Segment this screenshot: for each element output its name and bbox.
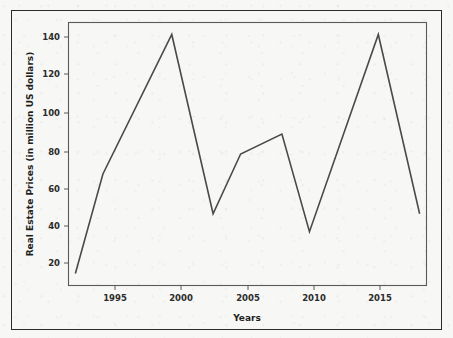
line-chart: 140 120 100 80 60 40 20 1995 2000 2005 2… — [0, 0, 453, 338]
x-axis-title: Years — [232, 313, 261, 323]
x-tick-label: 1995 — [103, 293, 127, 303]
y-tick-label: 20 — [48, 258, 60, 268]
x-axis-ticks — [115, 286, 380, 291]
y-tick-label: 100 — [42, 108, 60, 118]
y-axis-ticks — [64, 37, 69, 263]
x-tick-label: 2010 — [302, 293, 326, 303]
y-tick-label: 60 — [48, 184, 60, 194]
x-tick-label: 2015 — [368, 293, 392, 303]
y-tick-label: 120 — [42, 69, 60, 79]
x-tick-label: 2000 — [169, 293, 193, 303]
y-axis-title: Real Estate Prices (in million US dollar… — [25, 52, 35, 257]
y-tick-label: 80 — [48, 147, 60, 157]
x-axis-tick-labels: 1995 2000 2005 2010 2015 — [103, 293, 392, 303]
chart-screenshot: 140 120 100 80 60 40 20 1995 2000 2005 2… — [0, 0, 453, 338]
y-axis-tick-labels: 140 120 100 80 60 40 20 — [42, 32, 60, 268]
data-series-line — [75, 34, 419, 273]
plot-area-border — [69, 23, 427, 286]
x-tick-label: 2005 — [236, 293, 260, 303]
y-tick-label: 40 — [48, 221, 60, 231]
y-tick-label: 140 — [42, 32, 60, 42]
